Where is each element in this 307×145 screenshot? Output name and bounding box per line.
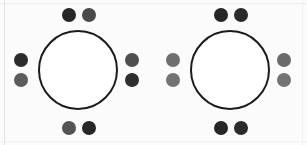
electron-dot-top-right — [82, 8, 96, 22]
electron-dot-right-lower — [125, 73, 139, 87]
atom-core-circle — [38, 30, 118, 110]
atom-group-left — [6, 0, 151, 145]
electron-dot-left-upper — [14, 53, 28, 67]
electron-dot-bottom-right — [82, 121, 96, 135]
lewis-dot-figure — [0, 0, 307, 145]
electron-dot-bottom-right — [234, 121, 248, 135]
atom-group-right — [158, 0, 303, 145]
electron-dot-left-upper — [166, 53, 180, 67]
atom-core-circle — [190, 30, 270, 110]
electron-dot-left-lower — [14, 73, 28, 87]
electron-dot-right-upper — [125, 53, 139, 67]
electron-dot-bottom-left — [214, 121, 228, 135]
electron-dot-bottom-left — [62, 121, 76, 135]
electron-dot-top-left — [62, 8, 76, 22]
electron-dot-right-upper — [277, 53, 291, 67]
electron-dot-right-lower — [277, 73, 291, 87]
electron-dot-left-lower — [166, 73, 180, 87]
frame-line-left — [4, 0, 5, 145]
electron-dot-top-left — [214, 8, 228, 22]
electron-dot-top-right — [234, 8, 248, 22]
